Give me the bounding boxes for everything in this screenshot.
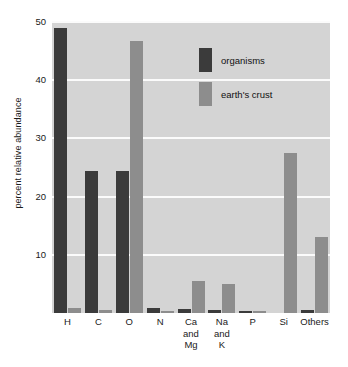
x-axis-label-h: H (52, 316, 83, 328)
bar-c-earth-s-crust (99, 310, 112, 313)
y-tick-label-20: 20 (18, 192, 46, 202)
x-axis-labels: HCONCaandMgNaandKPSiOthers (52, 316, 330, 366)
legend-swatch-earths-crust (199, 82, 212, 106)
bar-c-organisms (85, 171, 98, 313)
bar-h-earth-s-crust (68, 308, 81, 313)
bar-si-earth-s-crust (284, 153, 297, 313)
bar-chart: percent relative abundance 1020304050 HC… (0, 0, 348, 367)
x-axis-label-p: P (237, 316, 268, 328)
bar-n-organisms (147, 308, 160, 313)
bar-p-earth-s-crust (253, 311, 266, 313)
y-tick-label-50: 50 (18, 17, 46, 27)
legend-label-earths-crust: earth's crust (221, 89, 272, 100)
bar-n-earth-s-crust (161, 311, 174, 313)
x-axis-label-c: C (83, 316, 114, 328)
gridline-50 (52, 21, 330, 23)
x-axis-label-na-and-k: NaandK (206, 316, 237, 351)
bar-p-organisms (239, 311, 252, 313)
x-axis-label-ca-and-mg: CaandMg (176, 316, 207, 351)
bar-o-organisms (116, 171, 129, 313)
gridline-30 (52, 137, 330, 139)
legend-item-earths-crust: earth's crust (199, 82, 329, 110)
bar-others-organisms (301, 310, 314, 313)
legend: organisms earth's crust (199, 48, 329, 116)
bar-ca-and-mg-organisms (178, 309, 191, 313)
x-axis-label-si: Si (268, 316, 299, 328)
x-axis-label-n: N (145, 316, 176, 328)
bar-o-earth-s-crust (130, 41, 143, 313)
y-tick-label-40: 40 (18, 75, 46, 85)
y-tick-label-10: 10 (18, 250, 46, 260)
x-axis-label-o: O (114, 316, 145, 328)
legend-swatch-organisms (199, 48, 212, 72)
bar-na-and-k-organisms (208, 310, 221, 313)
bar-h-organisms (54, 28, 67, 313)
legend-label-organisms: organisms (221, 55, 265, 66)
y-tick-label-30: 30 (18, 133, 46, 143)
bar-ca-and-mg-earth-s-crust (192, 281, 205, 313)
legend-item-organisms: organisms (199, 48, 329, 76)
bar-others-earth-s-crust (315, 237, 328, 313)
bar-na-and-k-earth-s-crust (222, 284, 235, 313)
x-axis-label-others: Others (299, 316, 330, 328)
